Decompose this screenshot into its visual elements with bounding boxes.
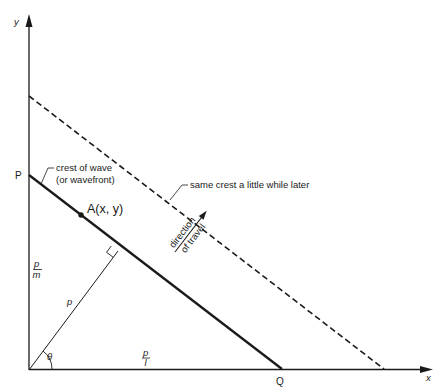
point-a-dot: [78, 212, 83, 217]
p-over-m-numerator: p: [33, 258, 39, 269]
p-over-m-denominator: m: [33, 269, 41, 280]
perpendicular-p-line: [29, 251, 118, 370]
crest-leader-line: [41, 168, 54, 184]
direction-of-travel: direction of travel: [165, 203, 215, 258]
p-over-l-denominator: l: [145, 357, 148, 368]
point-p-label: P: [15, 170, 22, 181]
p-label: p: [66, 296, 72, 307]
point-a-label: A(x, y): [87, 202, 123, 216]
y-axis-arrow-icon: [26, 14, 33, 27]
theta-label: θ: [47, 351, 53, 362]
y-axis: [26, 14, 33, 370]
p-over-l-fraction: p l: [142, 347, 150, 368]
crest-label-line2: (or wavefront): [56, 174, 115, 185]
p-over-m-fraction: p m: [33, 258, 43, 280]
wavefront-diagram: y x A(x, y) P Q crest of wave (or wavefr…: [0, 0, 447, 392]
x-axis-label: x: [425, 372, 432, 383]
crest-label-line1: crest of wave: [56, 162, 112, 173]
later-wavefront-dashed-line: [29, 96, 384, 369]
later-crest-label: same crest a little while later: [190, 179, 309, 190]
wavefront-line: [29, 175, 282, 369]
x-axis: [29, 366, 433, 373]
y-axis-label: y: [13, 16, 20, 27]
direction-arrow-icon: [199, 209, 209, 220]
later-crest-leader-line: [170, 185, 188, 200]
point-q-label: Q: [276, 376, 284, 387]
right-angle-marker: [107, 246, 114, 257]
